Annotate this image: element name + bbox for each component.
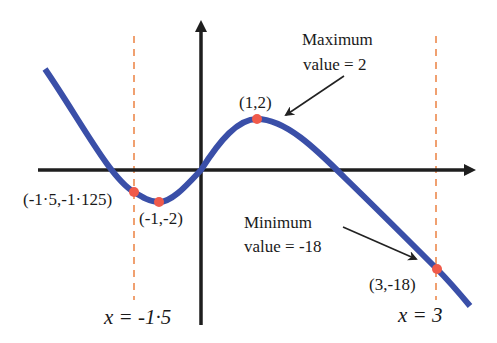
point-right-endpoint bbox=[432, 264, 442, 274]
equation-label-right: x = 3 bbox=[397, 303, 443, 327]
point-left-endpoint bbox=[129, 187, 139, 197]
label-right-endpoint: (3,-18) bbox=[369, 275, 416, 294]
label-local-minimum: (-1,-2) bbox=[139, 209, 183, 228]
max-annotation-line2: value = 2 bbox=[303, 55, 366, 74]
min-annotation-line1: Minimum bbox=[244, 213, 312, 232]
diagram-canvas: (-1·5,-1·125) (-1,-2) (1,2) (3,-18) Maxi… bbox=[0, 0, 497, 343]
label-local-maximum: (1,2) bbox=[239, 93, 272, 112]
max-annotation-line1: Maximum bbox=[302, 30, 373, 49]
point-local-minimum bbox=[154, 197, 164, 207]
min-annotation-line2: value = -18 bbox=[244, 237, 322, 256]
min-annotation-arrow bbox=[343, 227, 416, 259]
max-annotation-arrow bbox=[286, 76, 344, 115]
equation-label-left: x = -1·5 bbox=[103, 305, 171, 329]
label-left-endpoint: (-1·5,-1·125) bbox=[23, 190, 112, 209]
point-local-maximum bbox=[252, 114, 262, 124]
